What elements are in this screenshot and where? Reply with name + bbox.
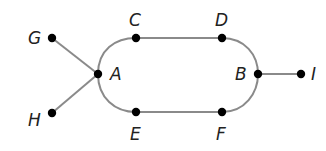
node-label-g: G [28,28,41,48]
edge-g-a [52,38,98,74]
node-d [218,34,226,42]
node-label-b: B [235,64,247,84]
node-e [132,108,140,116]
node-label-h: H [28,110,41,130]
node-label-i: I [311,64,316,84]
labels: ABCDEFGHI [28,10,316,144]
graph-svg: ABCDEFGHI [0,0,326,151]
node-label-f: F [216,124,226,144]
nodes [48,34,305,117]
edges [52,38,301,113]
edge-h-a [52,74,98,113]
node-label-c: C [129,10,141,30]
edge-oval-loop [98,38,258,112]
node-b [254,70,262,78]
node-label-e: E [130,124,141,144]
node-i [297,70,305,78]
node-g [48,34,56,42]
node-c [132,34,140,42]
node-label-d: D [215,10,228,30]
graph-diagram: ABCDEFGHI [0,0,326,151]
node-f [218,108,226,116]
node-h [48,109,56,117]
node-label-a: A [109,64,122,84]
node-a [94,70,102,78]
